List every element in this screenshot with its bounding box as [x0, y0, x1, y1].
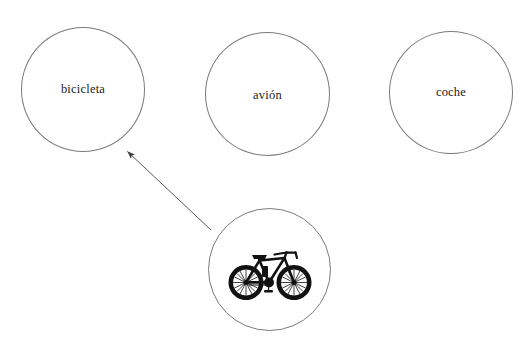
word-circle-coche[interactable]: coche — [389, 31, 513, 154]
word-circle-bicicleta[interactable]: bicicleta — [21, 27, 145, 152]
word-circle-avion[interactable]: avión — [205, 32, 330, 156]
word-circle-label: avión — [253, 89, 282, 102]
image-circle-bicycle[interactable] — [208, 208, 331, 331]
word-circle-label: bicicleta — [61, 83, 105, 96]
diagram-canvas: bicicleta avión coche — [0, 0, 528, 338]
bicycle-icon — [226, 240, 314, 300]
word-circle-label: coche — [436, 86, 466, 99]
match-arrow — [128, 152, 212, 231]
